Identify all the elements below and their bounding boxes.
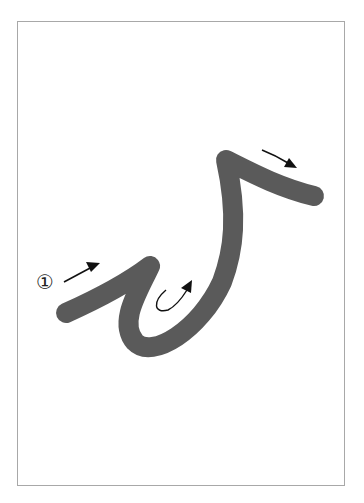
direction-arrow-2-icon bbox=[156, 280, 192, 311]
direction-arrow-1-icon bbox=[64, 262, 100, 282]
stroke-number-marker: ① bbox=[36, 272, 54, 292]
brush-stroke bbox=[66, 160, 314, 347]
direction-arrow-3-icon bbox=[262, 150, 297, 168]
stroke-diagram bbox=[0, 0, 364, 503]
